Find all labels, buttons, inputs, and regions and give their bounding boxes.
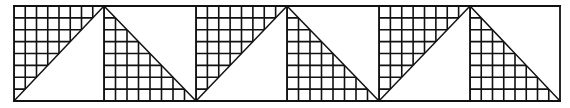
triangle-grid-band	[0, 0, 570, 108]
